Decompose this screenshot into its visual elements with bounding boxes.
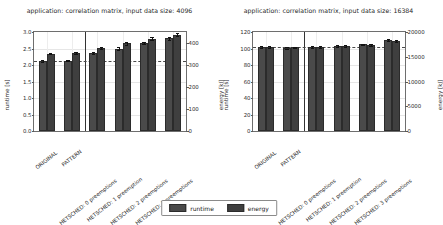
x-tick-label: PATTERN bbox=[60, 148, 82, 167]
y-tick-label: 0.5 bbox=[23, 112, 34, 118]
bar-energy bbox=[291, 47, 299, 131]
bar-runtime bbox=[64, 61, 72, 131]
error-bar-cap bbox=[92, 54, 95, 55]
error-bar-cap bbox=[361, 45, 364, 46]
chart-panel-left: application: correlation matrix, input d… bbox=[0, 0, 219, 190]
bar-energy bbox=[123, 43, 131, 131]
y-tick-label: 0 bbox=[247, 128, 253, 134]
bar-runtime bbox=[334, 46, 342, 131]
y-tick-label: 1.0 bbox=[23, 95, 34, 101]
error-bar-cap bbox=[387, 41, 390, 42]
error-bar-cap bbox=[268, 48, 271, 49]
error-bar-cap bbox=[168, 40, 171, 41]
y-tick-label: 0.0 bbox=[23, 128, 34, 134]
error-bar-cap bbox=[344, 47, 347, 48]
error-bar-cap bbox=[125, 42, 128, 43]
bar-energy bbox=[47, 54, 55, 131]
y-axis-label-right-panel: runtime [s] bbox=[223, 79, 229, 110]
y-tick-label: 60 bbox=[244, 79, 253, 85]
y-tick-label: 1.5 bbox=[23, 79, 34, 85]
bar-runtime bbox=[140, 43, 148, 131]
baseline-reference-line bbox=[253, 47, 405, 48]
error-bar-cap bbox=[336, 47, 339, 48]
error-bar-cap bbox=[369, 46, 372, 47]
y-tick-label: 120 bbox=[240, 29, 253, 35]
legend-label-runtime: runtime bbox=[190, 205, 214, 212]
gridline-horizontal bbox=[34, 65, 186, 66]
bar-energy bbox=[72, 53, 80, 131]
chart-legend: runtime energy bbox=[161, 200, 277, 216]
gridline-horizontal bbox=[253, 65, 405, 66]
group-separator-line bbox=[85, 32, 86, 131]
legend-swatch-icon-runtime bbox=[169, 204, 186, 212]
legend-item-runtime: runtime bbox=[169, 204, 214, 212]
gridline-horizontal bbox=[34, 115, 186, 116]
y-tick-label: 3.0 bbox=[23, 29, 34, 35]
error-bar-cap bbox=[41, 62, 44, 63]
y2-tick-label: 200 bbox=[186, 84, 199, 90]
y-tick-label: 2.5 bbox=[23, 46, 34, 52]
error-bar-cap bbox=[395, 42, 398, 43]
error-bar-cap bbox=[100, 49, 103, 50]
bar-runtime bbox=[115, 49, 123, 132]
bar-energy bbox=[392, 41, 400, 131]
chart-title-left: application: correlation matrix, input d… bbox=[0, 7, 219, 14]
error-bar-cap bbox=[168, 37, 171, 38]
y2-axis-label-right-panel: energy [kJ] bbox=[437, 80, 443, 111]
bar-energy bbox=[367, 45, 375, 131]
bar-energy bbox=[316, 47, 324, 131]
chart-title-right: application: correlation matrix, input d… bbox=[219, 7, 438, 14]
y2-tick-label: 5000 bbox=[405, 103, 421, 109]
error-bar-cap bbox=[142, 44, 145, 45]
bar-energy bbox=[97, 48, 105, 131]
gridline-horizontal bbox=[34, 82, 186, 83]
x-tick-label: PATTERN bbox=[279, 148, 301, 167]
legend-label-energy: energy bbox=[248, 205, 269, 212]
legend-swatch-icon-energy bbox=[227, 204, 244, 212]
bar-runtime bbox=[89, 53, 97, 131]
bar-runtime bbox=[359, 44, 367, 131]
bar-runtime bbox=[39, 61, 47, 131]
gridline-horizontal bbox=[34, 49, 186, 50]
bar-runtime bbox=[165, 38, 173, 131]
error-bar-cap bbox=[150, 40, 153, 41]
y-tick-label: 100 bbox=[240, 46, 253, 52]
gridline-horizontal bbox=[34, 98, 186, 99]
y-tick-label: 40 bbox=[244, 95, 253, 101]
bar-runtime bbox=[384, 40, 392, 131]
gridline-horizontal bbox=[253, 98, 405, 99]
bar-energy bbox=[342, 46, 350, 131]
y-tick-label: 80 bbox=[244, 62, 253, 68]
bar-runtime bbox=[258, 47, 266, 131]
gridline-horizontal bbox=[253, 49, 405, 50]
error-bar-cap bbox=[100, 47, 103, 48]
bar-runtime bbox=[308, 47, 316, 131]
y2-tick-label: 20000 bbox=[405, 29, 425, 35]
error-bar-cap bbox=[117, 50, 120, 51]
error-bar-cap bbox=[387, 39, 390, 40]
y2-tick-label: 100 bbox=[186, 106, 199, 112]
error-bar-cap bbox=[260, 48, 263, 49]
y2-tick-label: 10000 bbox=[405, 79, 425, 85]
error-bar-cap bbox=[150, 37, 153, 38]
gridline-horizontal bbox=[253, 115, 405, 116]
error-bar-cap bbox=[125, 45, 128, 46]
error-bar-cap bbox=[117, 47, 120, 48]
error-bar-cap bbox=[176, 33, 179, 34]
error-bar-cap bbox=[74, 54, 77, 55]
chart-panel-right: application: correlation matrix, input d… bbox=[219, 0, 438, 190]
error-bar-cap bbox=[176, 36, 179, 37]
error-bar-cap bbox=[293, 48, 296, 49]
gridline-horizontal bbox=[253, 82, 405, 83]
x-tick-label: ORIGINAL bbox=[253, 150, 277, 171]
y2-tick-label: 400 bbox=[186, 40, 199, 46]
y-tick-label: 20 bbox=[244, 112, 253, 118]
y2-tick-label: 0 bbox=[186, 128, 192, 134]
plot-area-right: 02040608010012005000100001500020000ORIGI… bbox=[252, 31, 406, 132]
error-bar-cap bbox=[142, 42, 145, 43]
y2-tick-label: 15000 bbox=[405, 54, 425, 60]
baseline-reference-line bbox=[34, 61, 186, 62]
bar-runtime bbox=[283, 48, 291, 131]
y-axis-label-left-panel: runtime [s] bbox=[4, 79, 10, 110]
